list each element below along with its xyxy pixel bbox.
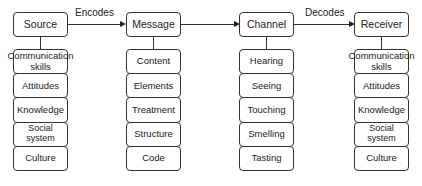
channel-item: Smelling xyxy=(239,122,294,147)
source-item: Attitudes xyxy=(13,73,68,98)
receiver-item: Knowledge xyxy=(354,97,409,122)
edge-label-encodes: Encodes xyxy=(75,7,114,18)
message-item: Elements xyxy=(126,73,181,98)
connector-channel xyxy=(266,37,267,49)
node-receiver: Receiver xyxy=(354,12,409,37)
connector-receiver xyxy=(381,37,382,49)
channel-attributes: Hearing Seeing Touching Smelling Tasting xyxy=(239,49,294,171)
message-item: Structure xyxy=(126,122,181,147)
source-item: Culture xyxy=(13,146,68,171)
source-item: Knowledge xyxy=(13,97,68,122)
message-item: Code xyxy=(126,146,181,171)
edge-source-message xyxy=(67,24,120,25)
receiver-attributes: Communication skills Attitudes Knowledge… xyxy=(354,49,409,171)
edge-channel-receiver xyxy=(294,24,349,25)
channel-item: Seeing xyxy=(239,73,294,98)
message-item: Treatment xyxy=(126,97,181,122)
message-item: Content xyxy=(126,49,181,74)
connector-source xyxy=(40,37,41,49)
receiver-item: Attitudes xyxy=(354,73,409,98)
receiver-item: Culture xyxy=(354,146,409,171)
node-message: Message xyxy=(126,12,181,37)
receiver-item: Communication skills xyxy=(354,49,409,74)
receiver-item: Social system xyxy=(354,122,409,147)
source-item: Social system xyxy=(13,122,68,147)
node-channel: Channel xyxy=(239,12,294,37)
edge-label-decodes: Decodes xyxy=(305,7,344,18)
channel-item: Hearing xyxy=(239,49,294,74)
channel-item: Touching xyxy=(239,97,294,122)
channel-item: Tasting xyxy=(239,146,294,171)
source-item: Communication skills xyxy=(13,49,68,74)
node-source: Source xyxy=(13,12,68,37)
message-attributes: Content Elements Treatment Structure Cod… xyxy=(126,49,181,171)
edge-message-channel xyxy=(181,24,234,25)
connector-message xyxy=(153,37,154,49)
source-attributes: Communication skills Attitudes Knowledge… xyxy=(13,49,68,171)
